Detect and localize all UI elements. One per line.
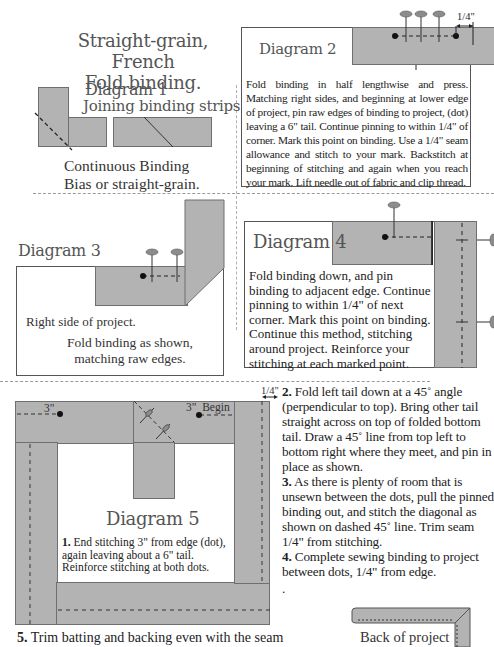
back-of-project-diagram bbox=[0, 0, 494, 647]
step5: 5. Trim batting and backing even with th… bbox=[17, 630, 283, 646]
step5-number: 5. bbox=[17, 630, 28, 645]
step5-text: Trim batting and backing even with the s… bbox=[31, 630, 284, 645]
back-of-project-label: Back of project bbox=[360, 628, 449, 646]
